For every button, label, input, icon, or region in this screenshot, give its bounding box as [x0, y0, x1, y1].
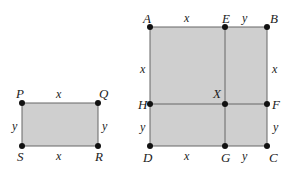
- label-x: X: [212, 86, 222, 101]
- point-g: [222, 143, 228, 149]
- label-d: D: [142, 150, 153, 165]
- label-c: C: [269, 150, 278, 165]
- label-h: H: [137, 97, 148, 112]
- label-s: S: [17, 149, 24, 164]
- side-ps-label: y: [11, 119, 18, 133]
- side-eb-label: y: [241, 11, 248, 25]
- point-c: [264, 143, 270, 149]
- label-e: E: [221, 11, 230, 26]
- point-h: [147, 101, 153, 107]
- point-d: [147, 143, 153, 149]
- label-a: A: [142, 11, 151, 26]
- side-pq-label: x: [55, 87, 62, 101]
- label-q: Q: [99, 86, 109, 101]
- rectangle-pqrs: P Q S R x x y y: [11, 86, 109, 164]
- label-b: B: [270, 11, 278, 26]
- label-f: F: [271, 97, 281, 112]
- side-sr-label: x: [55, 149, 62, 163]
- square-abcd: A E B H X F D G C x y x x y y x y: [137, 11, 281, 165]
- side-dg-label: x: [183, 149, 190, 163]
- label-g: G: [221, 150, 231, 165]
- point-x: [222, 101, 228, 107]
- point-f: [264, 101, 270, 107]
- side-qr-label: y: [101, 119, 108, 133]
- side-ah-label: x: [139, 62, 146, 76]
- side-hd-label: y: [139, 120, 146, 134]
- side-fc-label: y: [272, 120, 279, 134]
- geometry-diagram: P Q S R x x y y A E B H X F D G C x y x …: [0, 0, 295, 173]
- side-ae-label: x: [183, 11, 190, 25]
- side-bf-label: x: [271, 62, 278, 76]
- label-r: R: [94, 149, 103, 164]
- label-p: P: [15, 86, 24, 101]
- side-gc-label: y: [241, 149, 248, 163]
